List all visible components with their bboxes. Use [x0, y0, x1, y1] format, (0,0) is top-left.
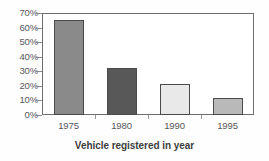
bar-series	[42, 13, 254, 115]
x-axis-tick	[148, 115, 149, 119]
x-axis-tick	[95, 115, 96, 119]
y-axis-tick-label: 20%	[0, 81, 38, 91]
x-axis-tick-label: 1990	[164, 120, 185, 131]
x-axis-tick	[201, 115, 202, 119]
bar	[54, 20, 84, 115]
y-axis-labels: 70% 60% 50% 40% 30% 20% 10% 0%	[0, 13, 38, 115]
chart-title: Vehicle registered in year	[0, 140, 269, 152]
x-axis-tick-label: 1995	[217, 120, 238, 131]
y-axis-tick-label: 0%	[0, 110, 38, 120]
bar-group	[213, 13, 243, 115]
bar-chart: 70% 60% 50% 40% 30% 20% 10% 0% 197519801…	[0, 0, 269, 161]
y-axis-tick-label: 10%	[0, 96, 38, 106]
y-axis-tick-label: 70%	[0, 8, 38, 18]
bar	[160, 84, 190, 115]
y-axis-tick-label: 50%	[0, 37, 38, 47]
x-axis-labels: 1975198019901995	[42, 120, 254, 134]
bar	[213, 98, 243, 115]
x-axis-tick-label: 1975	[58, 120, 79, 131]
y-axis-tick-label: 40%	[0, 52, 38, 62]
x-axis-tick-label: 1980	[111, 120, 132, 131]
bar	[107, 68, 137, 115]
y-axis-tick-label: 60%	[0, 23, 38, 33]
y-axis-tick-label: 30%	[0, 67, 38, 77]
bar-group	[160, 13, 190, 115]
bar-group	[54, 13, 84, 115]
bar-group	[107, 13, 137, 115]
